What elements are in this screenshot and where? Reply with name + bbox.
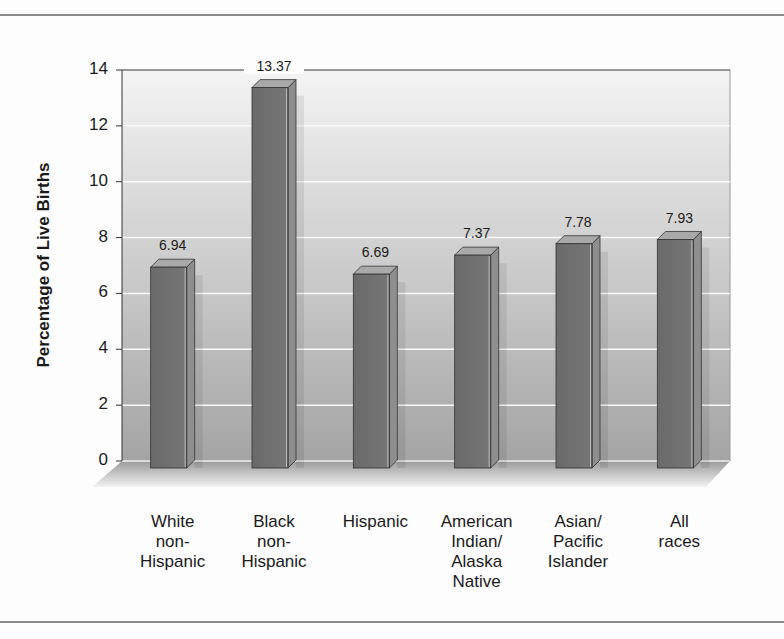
value-label: 7.93 bbox=[649, 210, 709, 226]
bar bbox=[455, 247, 507, 468]
category-label: Asian/PacificIslander bbox=[528, 512, 628, 572]
bar bbox=[657, 232, 709, 468]
bar bbox=[151, 259, 203, 468]
bar bbox=[252, 80, 304, 468]
category-label: AmericanIndian/AlaskaNative bbox=[427, 512, 527, 592]
value-label: 13.37 bbox=[244, 58, 304, 74]
bar bbox=[556, 236, 608, 468]
bar bbox=[353, 266, 405, 468]
y-tick-label: 8 bbox=[78, 227, 108, 247]
y-tick-label: 2 bbox=[78, 394, 108, 414]
category-label: Whitenon-Hispanic bbox=[123, 512, 223, 572]
value-label: 7.78 bbox=[548, 214, 608, 230]
y-tick-label: 4 bbox=[78, 338, 108, 358]
y-axis-title: Percentage of Live Births bbox=[34, 162, 54, 367]
category-label: Blacknon-Hispanic bbox=[224, 512, 324, 572]
value-label: 6.69 bbox=[345, 244, 405, 260]
y-tick-label: 10 bbox=[78, 171, 108, 191]
value-label: 7.37 bbox=[447, 225, 507, 241]
y-tick-label: 14 bbox=[78, 59, 108, 79]
y-tick-label: 0 bbox=[78, 450, 108, 470]
y-tick-label: 6 bbox=[78, 282, 108, 302]
category-label: Allraces bbox=[629, 512, 729, 552]
y-tick-label: 12 bbox=[78, 115, 108, 135]
category-label: Hispanic bbox=[325, 512, 425, 532]
value-label: 6.94 bbox=[143, 237, 203, 253]
